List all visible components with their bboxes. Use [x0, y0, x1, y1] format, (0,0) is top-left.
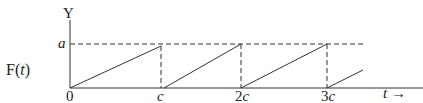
y-axis-label: Y: [63, 6, 74, 21]
sawtooth-curve: [70, 46, 161, 88]
x-axis-label: t →: [383, 86, 406, 101]
x-tick-3c: 3c: [321, 89, 335, 103]
x-tick-0: 0: [66, 89, 74, 103]
function-label: F(t): [6, 62, 30, 78]
level-a-label: a: [58, 36, 66, 51]
x-tick-2c: 2c: [235, 89, 249, 103]
x-tick-c: c: [157, 89, 164, 103]
ramp-4-partial: [327, 70, 363, 88]
ramp-3: [241, 44, 327, 88]
ramp-2: [164, 44, 241, 88]
